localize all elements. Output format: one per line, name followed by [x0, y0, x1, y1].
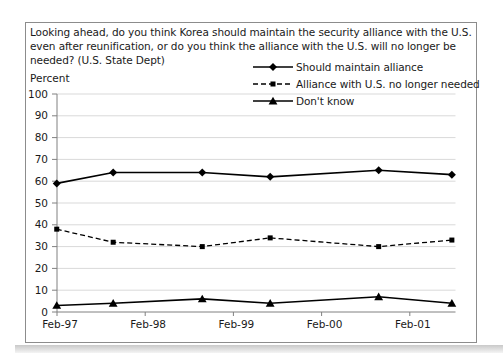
y-tick-label: 30: [35, 240, 48, 252]
page: Looking ahead, do you think Korea should…: [0, 0, 503, 360]
x-tick-label: Feb-01: [395, 318, 431, 330]
y-tick-label: 50: [35, 197, 48, 209]
x-tick-label: Feb-00: [307, 318, 343, 330]
plot-area: 0102030405060708090100Feb-97Feb-98Feb-99…: [0, 0, 503, 360]
y-tick-label: 40: [35, 218, 48, 230]
marker-diamond: [266, 173, 274, 181]
marker-square: [376, 244, 381, 249]
window-edge: [15, 345, 503, 353]
marker-diamond: [448, 171, 456, 179]
x-tick-label: Feb-97: [42, 318, 78, 330]
y-tick-label: 0: [41, 306, 48, 318]
y-tick-label: 10: [35, 284, 48, 296]
y-tick-label: 80: [35, 131, 48, 143]
marker-square: [449, 238, 454, 243]
marker-diamond: [53, 179, 61, 187]
y-tick-label: 100: [28, 88, 48, 100]
marker-square: [200, 244, 205, 249]
y-tick-label: 70: [35, 153, 48, 165]
marker-square: [268, 235, 273, 240]
y-tick-label: 60: [35, 175, 48, 187]
y-tick-label: 90: [35, 109, 48, 121]
marker-diamond: [109, 168, 117, 176]
x-tick-label: Feb-98: [130, 318, 166, 330]
y-tick-label: 20: [35, 262, 48, 274]
marker-square: [54, 227, 59, 232]
marker-diamond: [375, 166, 383, 174]
x-tick-label: Feb-99: [219, 318, 255, 330]
marker-diamond: [198, 168, 206, 176]
series-line-square: [57, 229, 452, 246]
marker-square: [111, 240, 116, 245]
